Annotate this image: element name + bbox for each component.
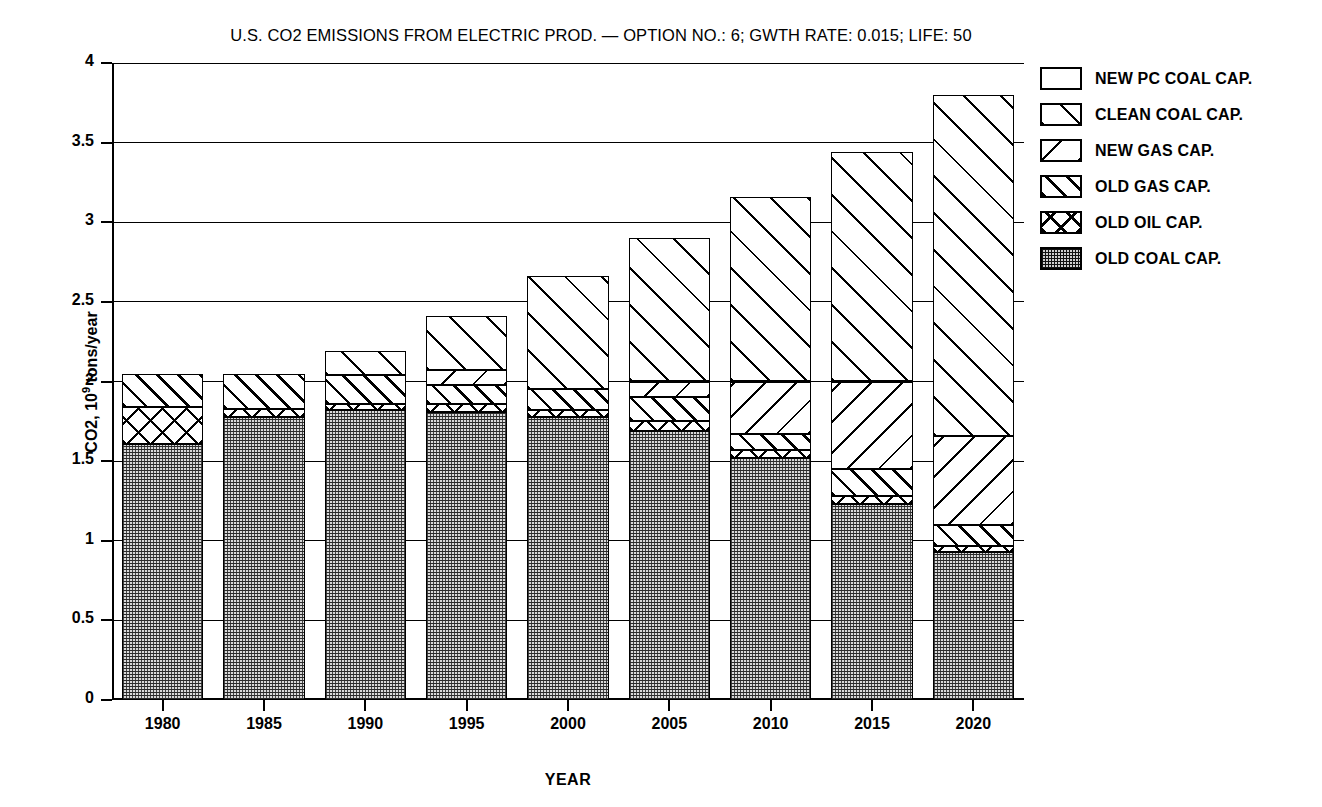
bar-2015 [831, 63, 912, 700]
bar-segment-clean-coal-2020 [933, 95, 1014, 436]
bar-segment-old-oil-2010 [730, 450, 811, 458]
bar-segment-old-gas-2015 [831, 469, 912, 496]
legend-swatch-old-coal-icon [1040, 247, 1082, 270]
legend-item-old-gas[interactable]: OLD GAS CAP. [1040, 171, 1315, 202]
x-axis-tick [567, 700, 569, 711]
legend-swatch-clean-coal-icon [1040, 103, 1082, 126]
bar-segment-clean-coal-1995 [426, 316, 507, 370]
bar-segment-old-coal-1985 [223, 417, 304, 700]
bar-segment-old-oil-1995 [426, 404, 507, 412]
legend-label: OLD GAS CAP. [1095, 178, 1211, 196]
y-tick-label: 1 [34, 530, 94, 548]
chart-title: U.S. CO2 EMISSIONS FROM ELECTRIC PROD. —… [0, 26, 1262, 45]
bar-segment-old-oil-2015 [831, 496, 912, 504]
x-tick-label-2020: 2020 [928, 715, 1018, 733]
x-axis-tick [162, 700, 164, 711]
bar-segment-new-gas-2020 [933, 436, 1014, 525]
bar-1995 [426, 63, 507, 700]
plot-area: 00.511.522.533.54 1980198519901995200020… [112, 63, 1024, 700]
bar-2020 [933, 63, 1014, 700]
y-tick-label: 2.5 [34, 291, 94, 309]
bar-1985 [223, 63, 304, 700]
y-axis-title-prefix: CO2, 10 [83, 393, 100, 453]
legend-swatch-blank-icon [1040, 67, 1082, 90]
y-axis-tick [101, 142, 112, 144]
legend-item-new-gas[interactable]: NEW GAS CAP. [1040, 135, 1315, 166]
y-tick-label: 3.5 [34, 132, 94, 150]
x-tick-label-1980: 1980 [118, 715, 208, 733]
bar-segment-new-gas-2015 [831, 382, 912, 470]
bar-segment-old-coal-2005 [629, 431, 710, 700]
bar-segment-old-oil-1980 [122, 407, 203, 444]
x-axis-tick [364, 700, 366, 711]
y-axis-title-suffix: tons/year [83, 311, 100, 387]
y-axis-tick [101, 619, 112, 621]
legend-label: NEW PC COAL CAP. [1095, 70, 1252, 88]
x-axis-tick [668, 700, 670, 711]
y-axis-tick [101, 699, 112, 701]
bar-segment-old-gas-2010 [730, 434, 811, 450]
legend-label: NEW GAS CAP. [1095, 142, 1214, 160]
bar-2000 [527, 63, 608, 700]
y-axis-tick [101, 301, 112, 303]
bar-segment-clean-coal-2005 [629, 238, 710, 381]
x-tick-label-2000: 2000 [523, 715, 613, 733]
bar-segment-old-gas-2005 [629, 397, 710, 421]
y-axis-title: CO2, 109 tons/year [80, 311, 100, 452]
legend-swatch-old-gas-icon [1040, 175, 1082, 198]
bar-segment-old-gas-1980 [122, 374, 203, 407]
legend-swatch-new-gas-icon [1040, 139, 1082, 162]
bar-segment-old-oil-1985 [223, 409, 304, 417]
bar-segment-old-gas-1995 [426, 385, 507, 404]
bar-segment-old-oil-2005 [629, 421, 710, 431]
bar-segment-old-coal-2020 [933, 552, 1014, 700]
bar-segment-old-coal-1980 [122, 444, 203, 700]
bar-segment-new-gas-2005 [629, 382, 710, 398]
x-tick-label-2015: 2015 [827, 715, 917, 733]
bar-1990 [325, 63, 406, 700]
bar-segment-old-gas-1985 [223, 374, 304, 409]
bar-segment-clean-coal-2010 [730, 197, 811, 382]
bar-segment-old-gas-2020 [933, 525, 1014, 546]
legend-swatch-old-oil-icon [1040, 211, 1082, 234]
bar-segment-clean-coal-1990 [325, 351, 406, 375]
chart-legend: NEW PC COAL CAP.CLEAN COAL CAP.NEW GAS C… [1040, 63, 1315, 279]
bar-segment-new-gas-2010 [730, 382, 811, 435]
y-tick-label: 0.5 [34, 609, 94, 627]
legend-item-blank[interactable]: NEW PC COAL CAP. [1040, 63, 1315, 94]
bar-segment-clean-coal-2000 [527, 276, 608, 389]
x-tick-label-2010: 2010 [726, 715, 816, 733]
x-axis-tick [972, 700, 974, 711]
y-axis-tick [101, 62, 112, 64]
y-axis-tick [101, 460, 112, 462]
bar-segment-old-gas-1990 [325, 375, 406, 404]
bar-segment-clean-coal-2015 [831, 152, 912, 381]
x-axis-title: YEAR [112, 771, 1024, 789]
x-axis-tick [263, 700, 265, 711]
chart-page: U.S. CO2 EMISSIONS FROM ELECTRIC PROD. —… [0, 0, 1322, 807]
legend-item-old-oil[interactable]: OLD OIL CAP. [1040, 207, 1315, 238]
bar-segment-old-gas-2000 [527, 389, 608, 410]
legend-item-old-coal[interactable]: OLD COAL CAP. [1040, 243, 1315, 274]
bar-2010 [730, 63, 811, 700]
x-tick-label-2005: 2005 [624, 715, 714, 733]
legend-label: CLEAN COAL CAP. [1095, 106, 1243, 124]
y-axis-tick [101, 381, 112, 383]
bar-segment-old-coal-2010 [730, 458, 811, 700]
legend-item-clean-coal[interactable]: CLEAN COAL CAP. [1040, 99, 1315, 130]
x-tick-label-1985: 1985 [219, 715, 309, 733]
bar-segment-old-coal-1990 [325, 410, 406, 700]
legend-label: OLD OIL CAP. [1095, 214, 1203, 232]
y-axis-tick [101, 540, 112, 542]
y-tick-label: 3 [34, 211, 94, 229]
x-tick-label-1995: 1995 [422, 715, 512, 733]
bar-segment-old-coal-2000 [527, 417, 608, 700]
bar-segment-old-oil-1990 [325, 404, 406, 410]
bar-2005 [629, 63, 710, 700]
bar-segment-new-gas-1995 [426, 370, 507, 384]
bar-segment-old-coal-1995 [426, 412, 507, 700]
y-axis-tick [101, 221, 112, 223]
bar-segment-old-coal-2015 [831, 504, 912, 700]
x-axis-tick [770, 700, 772, 711]
y-tick-label: 0 [34, 689, 94, 707]
